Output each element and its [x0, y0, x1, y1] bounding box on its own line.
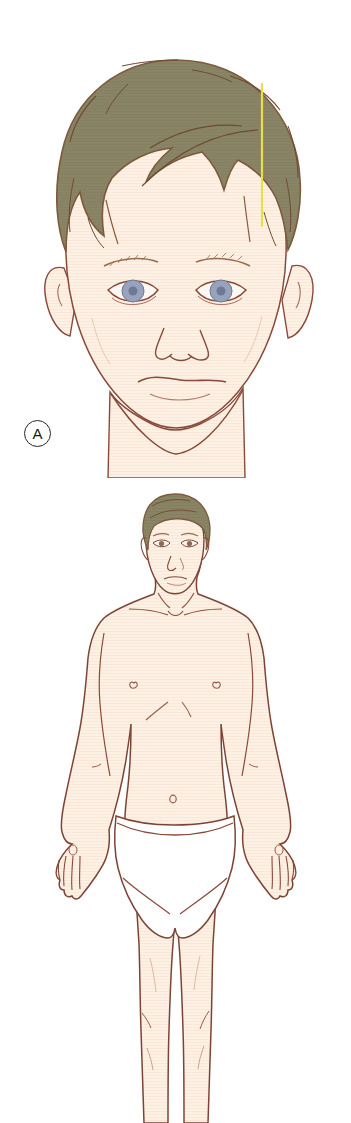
head-illustration	[0, 0, 351, 478]
body-right-iris	[187, 541, 192, 546]
right-pupil	[217, 287, 226, 296]
illustration-page: A	[0, 0, 351, 1123]
panel-b-body-front-view	[0, 478, 351, 1123]
body-illustration	[0, 478, 351, 1123]
panel-a-head-front-view: A	[0, 0, 351, 478]
left-pupil	[129, 287, 138, 296]
panel-label-a-text: A	[32, 426, 42, 441]
body-left-iris	[159, 541, 164, 546]
panel-label-a: A	[24, 420, 51, 447]
